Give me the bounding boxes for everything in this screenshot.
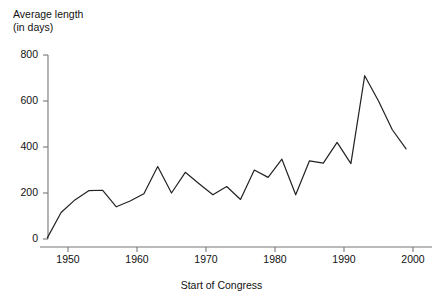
axis-lines (40, 55, 432, 247)
y-axis-ticks (43, 55, 48, 239)
x-axis-ticks (68, 247, 413, 252)
data-series-line (47, 76, 406, 238)
line-chart: Average length(in days) Start of Congres… (0, 0, 443, 299)
plot-area (0, 0, 443, 299)
